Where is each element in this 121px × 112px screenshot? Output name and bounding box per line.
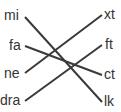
left-label-mi: mi xyxy=(4,8,19,22)
right-label-xt: xt xyxy=(104,7,115,21)
matching-diagram: mifanedra xtftctlk xyxy=(0,0,121,112)
connection-dra-ft xyxy=(25,45,102,101)
connection-fa-ct xyxy=(25,46,102,75)
right-label-ft: ft xyxy=(105,37,113,51)
left-label-dra: dra xyxy=(0,93,20,107)
left-label-ne: ne xyxy=(4,66,20,80)
right-label-lk: lk xyxy=(104,94,114,108)
left-label-fa: fa xyxy=(9,38,21,52)
connection-ne-xt xyxy=(25,15,102,73)
right-label-ct: ct xyxy=(104,67,115,81)
